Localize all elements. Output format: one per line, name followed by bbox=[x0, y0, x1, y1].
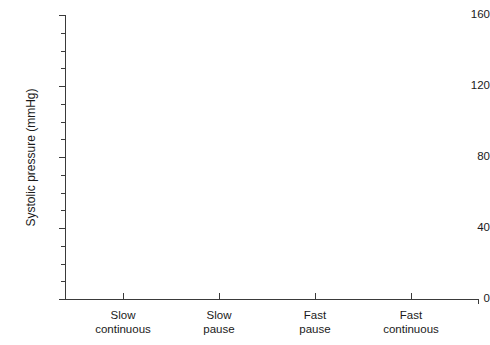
y-tick-label-40: 40 bbox=[438, 222, 490, 234]
y-tick-minor-20 bbox=[61, 264, 65, 265]
y-tick-minor-60 bbox=[61, 193, 65, 194]
y-tick-label-80: 80 bbox=[438, 151, 490, 163]
y-tick-minor-110 bbox=[61, 104, 65, 105]
x-tick-label-slow-pause: Slow pause bbox=[164, 308, 274, 336]
x-tick-label-line2: pause bbox=[260, 322, 370, 336]
y-tick-minor-130 bbox=[61, 68, 65, 69]
y-tick-minor-30 bbox=[61, 246, 65, 247]
y-tick-minor-150 bbox=[61, 33, 65, 34]
x-tick-label-fast-pause: Fast pause bbox=[260, 308, 370, 336]
y-tick-label-0: 0 bbox=[438, 293, 490, 305]
x-tick-slow-continuous bbox=[123, 293, 124, 299]
y-tick-label-120: 120 bbox=[438, 80, 490, 92]
y-tick-major-160 bbox=[59, 15, 65, 16]
x-tick-label-line1: Slow bbox=[164, 308, 274, 322]
x-tick-fast-pause bbox=[315, 293, 316, 299]
x-axis-end-cap bbox=[478, 299, 479, 304]
x-tick-label-fast-continuous: Fast continuous bbox=[356, 308, 466, 336]
y-tick-minor-10 bbox=[61, 281, 65, 282]
x-tick-fast-continuous bbox=[411, 293, 412, 299]
y-tick-minor-90 bbox=[61, 139, 65, 140]
chart-figure: Systolic pressure (mmHg) 160 120 80 40 0… bbox=[0, 0, 490, 345]
x-tick-label-line2: continuous bbox=[68, 322, 178, 336]
x-tick-label-line1: Slow bbox=[68, 308, 178, 322]
y-tick-major-120 bbox=[59, 86, 65, 87]
plot-area bbox=[66, 15, 479, 299]
y-axis-line bbox=[65, 15, 66, 300]
y-tick-major-80 bbox=[59, 157, 65, 158]
y-tick-label-160: 160 bbox=[438, 9, 490, 21]
y-tick-major-0 bbox=[59, 299, 65, 300]
y-tick-major-40 bbox=[59, 228, 65, 229]
x-tick-label-line1: Fast bbox=[260, 308, 370, 322]
x-tick-label-line2: continuous bbox=[356, 322, 466, 336]
y-tick-minor-140 bbox=[61, 51, 65, 52]
y-axis-title: Systolic pressure (mmHg) bbox=[22, 15, 40, 300]
y-tick-minor-70 bbox=[61, 175, 65, 176]
y-tick-minor-100 bbox=[61, 122, 65, 123]
x-tick-label-line2: pause bbox=[164, 322, 274, 336]
x-tick-label-slow-continuous: Slow continuous bbox=[68, 308, 178, 336]
x-tick-label-line1: Fast bbox=[356, 308, 466, 322]
x-tick-slow-pause bbox=[219, 293, 220, 299]
x-axis-line bbox=[65, 299, 479, 300]
y-tick-minor-50 bbox=[61, 210, 65, 211]
